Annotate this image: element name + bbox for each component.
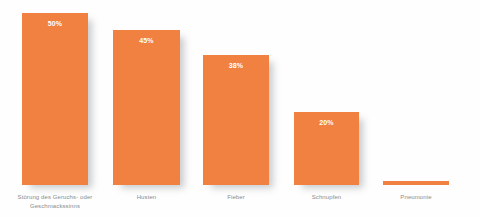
- bar-group-4: Pneumonie: [383, 181, 449, 185]
- bar-fieber[interactable]: 38%: [203, 55, 269, 185]
- category-label-4-line-0: Pneumonie: [361, 193, 471, 202]
- bar-group-1: 45% Husten: [113, 30, 180, 185]
- bar-chart: 50% Störung des Geruchs- oder Geschmacks…: [0, 0, 480, 217]
- bar-value-label-0: 50%: [22, 19, 88, 28]
- bar-stoerung-des-geruchs-oder-geschmackssinns[interactable]: 50%: [22, 13, 88, 185]
- bar-value-label-1: 45%: [113, 36, 180, 45]
- bar-schnupfen[interactable]: 20%: [294, 112, 359, 185]
- bar-value-label-2: 38%: [203, 61, 269, 70]
- bar-group-2: 38% Fieber: [203, 55, 269, 185]
- bar-group-3: 20% Schnupfen: [294, 112, 359, 185]
- bar-pneumonie[interactable]: [383, 181, 449, 185]
- category-label-0-line-1: Geschmackssinns: [0, 202, 110, 211]
- bar-group-0: 50% Störung des Geruchs- oder Geschmacks…: [22, 13, 88, 185]
- category-label-4: Pneumonie: [361, 193, 471, 202]
- plot-area: 50% Störung des Geruchs- oder Geschmacks…: [0, 0, 480, 217]
- bar-value-label-3: 20%: [294, 118, 359, 127]
- bar-husten[interactable]: 45%: [113, 30, 180, 185]
